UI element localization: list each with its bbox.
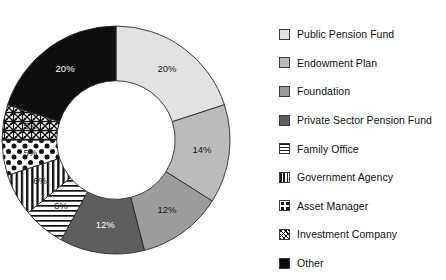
legend-swatch-icon [279,29,290,40]
legend-item[interactable]: Other [279,249,443,278]
slice-value-label: 6% [33,175,47,186]
legend-swatch-icon [279,57,290,68]
legend-item-label: Other [297,257,324,269]
legend-swatch-icon [279,143,290,154]
chart-page: 20%14%12%12%6%6%5%5%20% Public Pension F… [0,0,446,280]
slice-value-label: 14% [192,144,212,155]
legend-item[interactable]: Private Sector Pension Fund [279,106,443,135]
legend-item[interactable]: Foundation [279,77,443,106]
legend-item[interactable]: Asset Manager [279,192,443,221]
donut-chart: 20%14%12%12%6%6%5%5%20% [0,0,232,280]
legend-item-label: Asset Manager [297,200,368,212]
legend-item-label: Public Pension Fund [297,28,394,40]
legend-swatch-icon [279,86,290,97]
legend-item-label: Government Agency [297,171,393,183]
legend-swatch-icon [279,115,290,126]
legend-item-label: Investment Company [297,228,397,240]
legend-swatch-icon [279,229,290,240]
legend-item[interactable]: Family Office [279,134,443,163]
legend-item-label: Foundation [297,85,350,97]
legend-item-label: Family Office [297,143,359,155]
donut-chart-svg: 20%14%12%12%6%6%5%5%20% [0,0,232,280]
legend-swatch-icon [279,200,290,211]
legend-item[interactable]: Endowment Plan [279,49,443,78]
slice-value-label: 6% [54,200,68,211]
legend-item-label: Private Sector Pension Fund [297,114,432,126]
slice-value-label: 20% [56,63,76,74]
legend-item-label: Endowment Plan [297,57,377,69]
donut-slices [2,26,230,254]
legend-swatch-icon [279,172,290,183]
slice-value-label: 5% [24,120,38,131]
legend-item[interactable]: Government Agency [279,163,443,192]
slice-value-label: 12% [157,204,177,215]
legend-item[interactable]: Public Pension Fund [279,20,443,49]
slice-value-label: 5% [24,147,38,158]
legend-swatch-icon [279,258,290,269]
slice-value-label: 12% [96,219,116,230]
chart-legend: Public Pension FundEndowment PlanFoundat… [279,20,443,277]
slice-value-label: 20% [157,63,177,74]
legend-item[interactable]: Investment Company [279,220,443,249]
